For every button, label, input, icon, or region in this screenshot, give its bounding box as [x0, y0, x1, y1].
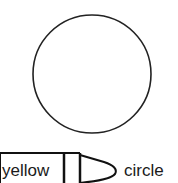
shape-word-label: circle	[124, 162, 164, 179]
crayon-label-row: yellow circle	[0, 148, 178, 183]
circle-shape-icon	[0, 0, 178, 140]
color-word-label: yellow	[2, 162, 49, 179]
circle-drawing	[0, 0, 178, 140]
